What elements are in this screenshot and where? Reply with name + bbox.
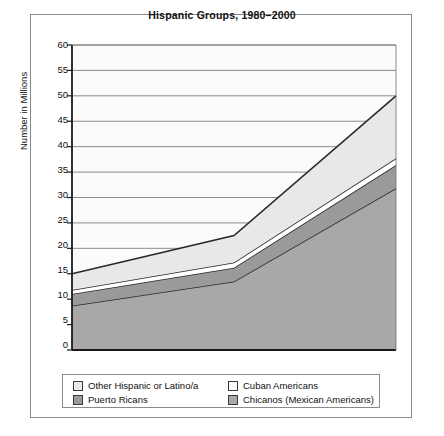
legend-item-cuban-americans[interactable]: Cuban Americans: [228, 380, 318, 391]
legend-swatch-icon: [73, 395, 83, 405]
legend-item-chicanos[interactable]: Chicanos (Mexican Americans): [228, 394, 374, 405]
chart-legend: Other Hispanic or Latino/a Cuban America…: [62, 374, 380, 408]
area-chart-plot: [0, 0, 444, 436]
legend-item-puerto-ricans[interactable]: Puerto Ricans: [73, 394, 148, 405]
legend-item-other-hispanic[interactable]: Other Hispanic or Latino/a: [73, 380, 198, 391]
chart-container: Hispanic Groups, 1980–2000 Number in Mil…: [0, 0, 444, 436]
legend-swatch-icon: [228, 381, 238, 391]
legend-label: Puerto Ricans: [88, 394, 148, 405]
legend-swatch-icon: [228, 395, 238, 405]
legend-label: Cuban Americans: [243, 380, 318, 391]
legend-swatch-icon: [73, 381, 83, 391]
legend-label: Other Hispanic or Latino/a: [88, 380, 198, 391]
legend-label: Chicanos (Mexican Americans): [243, 394, 374, 405]
